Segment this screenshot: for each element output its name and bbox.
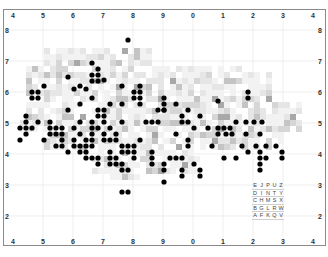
right-tick-label: 5 — [318, 120, 322, 127]
key-letter: D — [252, 190, 258, 197]
key-letter: T — [272, 190, 278, 197]
left-tick-label: 7 — [5, 58, 9, 65]
top-tick-label: 7 — [101, 12, 105, 19]
key-letter: H — [259, 197, 265, 204]
left-tick-label: 3 — [5, 182, 9, 189]
key-letter: M — [265, 197, 271, 204]
bottom-tick-label: 8 — [131, 238, 135, 245]
left-tick-label: 6 — [5, 89, 9, 96]
bottom-tick-label: 5 — [41, 238, 45, 245]
key-letter: U — [272, 182, 278, 189]
top-tick-label: 1 — [221, 12, 225, 19]
bottom-tick-label: 3 — [281, 238, 285, 245]
right-tick-label: 8 — [318, 27, 322, 34]
key-letter: X — [278, 197, 284, 204]
key-letter: K — [265, 212, 271, 219]
key-letter: B — [252, 205, 258, 212]
key-letter: A — [252, 212, 258, 219]
key-row: D I N T Y — [252, 190, 284, 198]
top-tick-label: 6 — [71, 12, 75, 19]
right-tick-label: 3 — [318, 182, 322, 189]
top-tick-label: 3 — [281, 12, 285, 19]
bottom-tick-label: 4 — [11, 238, 15, 245]
key-letter: Q — [272, 212, 278, 219]
key-letter: L — [265, 205, 271, 212]
left-tick-label: 8 — [5, 27, 9, 34]
bottom-tick-label: 1 — [221, 238, 225, 245]
right-tick-label: 2 — [318, 213, 322, 220]
top-tick-label: 2 — [251, 12, 255, 19]
key-row: E J P U Z — [252, 182, 284, 190]
left-tick-label: 2 — [5, 213, 9, 220]
key-row: B G L R W — [252, 205, 284, 213]
bottom-tick-label: 6 — [71, 238, 75, 245]
key-letter: Z — [278, 182, 284, 189]
key-letter: V — [278, 212, 284, 219]
key-letter: E — [252, 182, 258, 189]
right-tick-label: 7 — [318, 58, 322, 65]
key-letter: W — [278, 205, 284, 212]
key-letter: N — [265, 190, 271, 197]
key-letter: C — [252, 197, 258, 204]
top-tick-label: 4 — [11, 12, 15, 19]
key-letter: I — [259, 190, 265, 197]
top-tick-label: 4 — [311, 12, 315, 19]
letter-grid-key: E J P U Z D I N T Y C H M S X B G L R W — [252, 182, 284, 215]
key-row: A F K Q V — [252, 212, 284, 220]
key-letter: F — [259, 212, 265, 219]
left-tick-label: 4 — [5, 151, 9, 158]
top-tick-label: 8 — [131, 12, 135, 19]
bottom-tick-label: 7 — [101, 238, 105, 245]
bottom-tick-label: 4 — [311, 238, 315, 245]
top-tick-label: 5 — [41, 12, 45, 19]
key-letter: Y — [278, 190, 284, 197]
bottom-tick-label: 2 — [251, 238, 255, 245]
bottom-tick-label: 0 — [191, 238, 195, 245]
grid-map: 456789012344567890123487654328765432 E J… — [0, 0, 328, 257]
right-tick-label: 4 — [318, 151, 322, 158]
top-tick-label: 9 — [161, 12, 165, 19]
key-letter: R — [272, 205, 278, 212]
key-letter: P — [265, 182, 271, 189]
top-tick-label: 0 — [191, 12, 195, 19]
key-letter: S — [272, 197, 278, 204]
bottom-tick-label: 9 — [161, 238, 165, 245]
left-tick-label: 5 — [5, 120, 9, 127]
key-letter: G — [259, 205, 265, 212]
right-tick-label: 6 — [318, 89, 322, 96]
key-letter: J — [259, 182, 265, 189]
key-row: C H M S X — [252, 197, 284, 205]
